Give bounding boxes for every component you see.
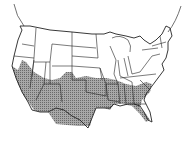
map-canvas [0, 0, 185, 142]
us-range-map [0, 0, 185, 142]
graticule-left [14, 4, 24, 26]
great-lakes [112, 36, 131, 52]
